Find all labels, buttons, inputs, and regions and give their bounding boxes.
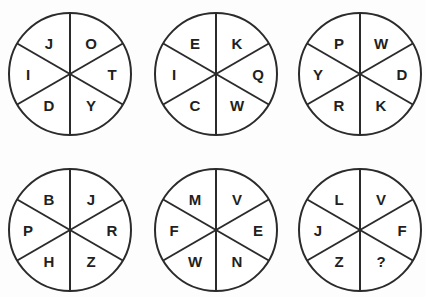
wheel-5-sector-middle-right: E	[253, 222, 263, 239]
wheel-2-sector-bottom-right: W	[230, 97, 245, 114]
wheel-5-sector-bottom-right: N	[232, 253, 243, 270]
wheel-5-sector-bottom-left: W	[188, 253, 203, 270]
wheel-4-sector-bottom-left: H	[44, 253, 55, 270]
wheel-6-sector-top-right: V	[376, 191, 386, 208]
wheel-5-sector-top-left: M	[189, 191, 202, 208]
wheel-1-sector-top-left: J	[45, 35, 53, 52]
letter-wheels-puzzle: J O I T D Y E K I Q C W P	[0, 0, 425, 297]
wheel-3-graphic: P W Y D R K	[297, 11, 423, 137]
wheel-2-sector-bottom-left: C	[190, 97, 201, 114]
wheel-6: L V J F Z ?	[297, 167, 423, 293]
wheel-1-sector-middle-right: T	[107, 66, 116, 83]
wheel-1-sector-bottom-right: Y	[86, 97, 96, 114]
wheel-2-sector-middle-left: I	[172, 66, 176, 83]
wheel-2-sector-middle-right: Q	[252, 66, 264, 83]
wheel-2-sector-top-left: E	[190, 35, 200, 52]
wheel-4-sector-bottom-right: Z	[86, 253, 95, 270]
wheel-3-sector-middle-right: D	[397, 66, 408, 83]
wheel-5-sector-top-right: V	[232, 191, 242, 208]
wheel-6-sector-bottom-right: ?	[376, 253, 385, 270]
wheel-6-sector-top-left: L	[334, 191, 343, 208]
wheel-5: M V F E W N	[153, 167, 279, 293]
wheel-4-graphic: B J P R H Z	[7, 167, 133, 293]
wheel-1-graphic: J O I T D Y	[7, 11, 133, 137]
wheel-6-sector-bottom-left: Z	[334, 253, 343, 270]
wheel-4-sector-middle-right: R	[107, 222, 118, 239]
wheel-1: J O I T D Y	[7, 11, 133, 137]
wheel-2: E K I Q C W	[153, 11, 279, 137]
wheel-4-sector-top-left: B	[44, 191, 55, 208]
wheel-5-sector-middle-left: F	[169, 222, 178, 239]
wheel-5-graphic: M V F E W N	[153, 167, 279, 293]
wheel-2-sector-top-right: K	[232, 35, 243, 52]
wheel-3-sector-bottom-left: R	[334, 97, 345, 114]
wheel-3-sector-bottom-right: K	[376, 97, 387, 114]
wheel-4-sector-middle-left: P	[23, 222, 33, 239]
wheel-3-sector-top-right: W	[374, 35, 389, 52]
wheel-3-sector-middle-left: Y	[313, 66, 323, 83]
wheel-4: B J P R H Z	[7, 167, 133, 293]
wheel-1-sector-middle-left: I	[26, 66, 30, 83]
wheel-4-sector-top-right: J	[87, 191, 95, 208]
wheel-6-graphic: L V J F Z ?	[297, 167, 423, 293]
wheel-2-graphic: E K I Q C W	[153, 11, 279, 137]
wheel-3-sector-top-left: P	[334, 35, 344, 52]
wheel-6-sector-middle-right: F	[397, 222, 406, 239]
wheel-1-sector-bottom-left: D	[44, 97, 55, 114]
wheel-1-sector-top-right: O	[85, 35, 97, 52]
wheel-6-sector-middle-left: J	[314, 222, 322, 239]
wheel-3: P W Y D R K	[297, 11, 423, 137]
